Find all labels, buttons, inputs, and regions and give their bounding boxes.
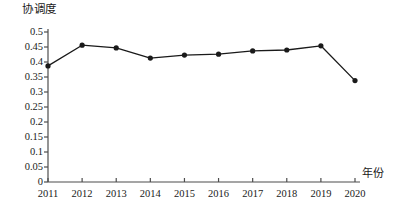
data-point-marker — [114, 45, 119, 50]
data-point-marker — [182, 53, 187, 58]
data-point-marker — [318, 43, 323, 48]
data-point-marker — [216, 52, 221, 57]
data-line-xiediaodu — [48, 45, 355, 80]
data-point-marker — [45, 63, 50, 68]
data-point-marker — [148, 56, 153, 61]
coordination-degree-line-chart: 协调度 年份 00.050.10.150.20.250.30.350.40.45… — [0, 0, 395, 212]
data-point-marker — [284, 47, 289, 52]
data-point-marker — [80, 43, 85, 48]
data-point-marker — [352, 78, 357, 83]
plot-area — [0, 0, 395, 212]
data-point-marker — [250, 48, 255, 53]
